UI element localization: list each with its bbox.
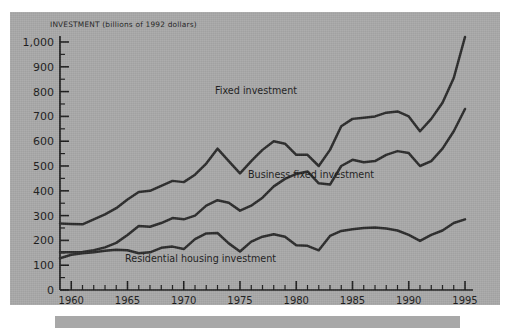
y-tick-label: 600 [33,135,54,148]
investment-line-chart: INVESTMENT (billions of 1992 dollars) 01… [10,12,500,305]
x-tick-label: 1990 [396,295,421,305]
y-tick-label: 500 [33,160,54,173]
x-axis-ticks [71,281,465,290]
y-tick-label: 900 [33,61,54,74]
chart-axis-title: INVESTMENT (billions of 1992 dollars) [50,20,197,29]
chart-panel: INVESTMENT (billions of 1992 dollars) 01… [10,12,500,305]
x-tick-label: 1960 [59,295,84,305]
x-axis-tick-labels: 19601965197019751980198519901995 [59,295,478,305]
y-tick-label: 400 [33,185,54,198]
y-tick-label: 800 [33,86,54,99]
y-tick-label: 200 [33,234,54,247]
x-tick-label: 1995 [452,295,477,305]
series-line-business-fixed-investment [60,109,465,252]
y-tick-label: 100 [33,259,54,272]
decorative-caption-bar [55,316,460,328]
x-tick-label: 1970 [171,295,196,305]
y-axis-tick-labels: 01002003004005006007008009001,000 [23,36,55,297]
y-tick-label: 700 [33,110,54,123]
y-tick-label: 0 [47,284,54,297]
x-tick-label: 1975 [227,295,252,305]
series-label-fixed-investment: Fixed investment [215,85,297,96]
y-tick-label: 1,000 [23,36,55,49]
series-label-business-fixed-investment: Business fixed investment [248,169,374,180]
x-tick-label: 1980 [284,295,309,305]
x-tick-label: 1985 [340,295,365,305]
x-tick-label: 1965 [115,295,140,305]
y-tick-label: 300 [33,210,54,223]
figure-root: INVESTMENT (billions of 1992 dollars) 01… [0,0,517,328]
series-label-residential-housing-investment: Residential housing investment [125,253,276,264]
